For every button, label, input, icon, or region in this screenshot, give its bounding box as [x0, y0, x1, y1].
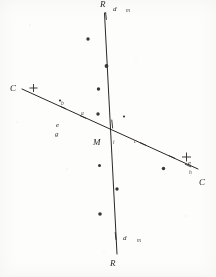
figure-canvas: [0, 0, 216, 277]
label-left-lower-e: e: [56, 122, 59, 129]
label-right-endpoint: C: [199, 178, 205, 187]
label-top-endpoint: R: [100, 0, 106, 9]
star-6: [98, 164, 101, 167]
ticks-group: [60, 13, 190, 240]
tick-diagonal-right: [140, 143, 145, 145]
label-bottom-tick-d: d: [123, 235, 127, 242]
figure-root: R d m R d m C C M e g e h b a c i: [0, 0, 216, 277]
label-left-endpoint: C: [10, 84, 16, 93]
label-intersection-M: M: [93, 138, 101, 147]
label-near-center-i: i: [113, 140, 115, 146]
label-diag-right-c: c: [134, 139, 136, 145]
star-3: [97, 87, 100, 90]
label-right-upper-e: e: [188, 160, 191, 167]
label-top-tick-m: m: [126, 8, 130, 14]
tick-diagonal-far: [169, 156, 174, 158]
star-9: [98, 212, 102, 216]
label-right-tick-h: h: [189, 170, 192, 176]
label-diag-left-b: b: [61, 101, 64, 107]
label-bottom-endpoint: R: [110, 259, 116, 268]
tick-vertical-top: [106, 13, 107, 20]
label-diag-mid-a: a: [81, 111, 84, 117]
star-8: [162, 167, 165, 170]
label-bottom-tick-m: m: [137, 238, 141, 244]
label-left-lower-g: g: [55, 131, 59, 138]
tick-diagonal-left: [60, 106, 65, 108]
lines-group: [22, 13, 198, 254]
star-1: [86, 37, 89, 40]
vertical-line-PR: [105, 13, 118, 254]
label-top-tick-d: d: [113, 6, 117, 13]
tick-vertical-upper: [112, 120, 113, 128]
star-4: [96, 112, 99, 115]
star-2: [105, 64, 109, 68]
star-7: [115, 187, 118, 190]
star-5: [123, 115, 125, 117]
